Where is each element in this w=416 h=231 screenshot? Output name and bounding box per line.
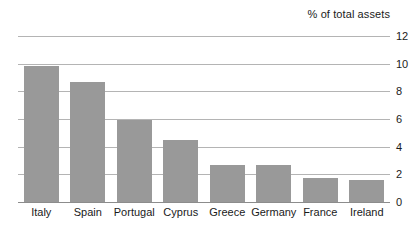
y-tick-label: 6 <box>396 113 402 125</box>
gridline-0 <box>18 202 390 203</box>
y-tick-label: 12 <box>396 30 408 42</box>
x-label-cyprus: Cyprus <box>163 206 198 218</box>
x-label-ireland: Ireland <box>350 206 384 218</box>
axis-title: % of total assets <box>308 8 390 20</box>
bar-greece <box>210 165 245 202</box>
bar-italy <box>24 66 59 202</box>
bar-portugal <box>117 120 152 202</box>
bars <box>18 36 390 202</box>
y-tick-label: 2 <box>396 168 402 180</box>
x-label-germany: Germany <box>251 206 296 218</box>
x-label-greece: Greece <box>209 206 245 218</box>
y-tick-label: 10 <box>396 58 408 70</box>
bar-ireland <box>349 180 384 202</box>
bar-cyprus <box>163 140 198 202</box>
x-axis-labels: ItalySpainPortugalCyprusGreeceGermanyFra… <box>18 206 390 226</box>
x-label-france: France <box>303 206 337 218</box>
x-label-italy: Italy <box>31 206 51 218</box>
bar-germany <box>256 165 291 202</box>
y-tick-label: 8 <box>396 85 402 97</box>
bar-chart: % of total assets 024681012 ItalySpainPo… <box>0 0 416 231</box>
plot-area <box>18 36 390 202</box>
bar-spain <box>70 82 105 202</box>
y-tick-label: 0 <box>396 196 402 208</box>
x-label-spain: Spain <box>74 206 102 218</box>
bar-france <box>303 178 338 202</box>
x-label-portugal: Portugal <box>114 206 155 218</box>
y-tick-label: 4 <box>396 141 402 153</box>
